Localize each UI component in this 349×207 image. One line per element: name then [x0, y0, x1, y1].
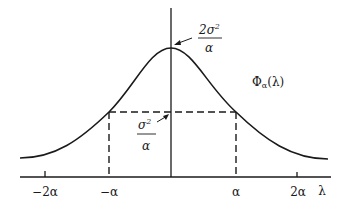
arrow-head-icon [163, 114, 169, 120]
svg-text:α: α [142, 139, 150, 153]
svg-text:σ2: σ2 [138, 117, 151, 132]
svg-text:2σ2: 2σ2 [198, 22, 220, 37]
phi-alpha-plot: 2σ2 α σ2 α Φα(λ) −2α −α α 2α λ [0, 0, 349, 207]
function-label: Φα(λ) [252, 75, 284, 90]
arrow-head-icon [174, 40, 181, 45]
half-annotation: σ2 α [137, 114, 169, 153]
tick-label-alpha: α [232, 185, 240, 199]
x-axis-label: λ [318, 184, 326, 198]
phi-curve [20, 48, 328, 159]
half-height-dashed-lines [109, 112, 236, 177]
tick-label-minus-2alpha: −2α [32, 185, 58, 199]
tick-label-2alpha: 2α [290, 185, 306, 199]
svg-text:α: α [205, 41, 213, 55]
tick-label-minus-alpha: −α [100, 185, 118, 199]
peak-annotation: 2σ2 α [174, 22, 222, 55]
